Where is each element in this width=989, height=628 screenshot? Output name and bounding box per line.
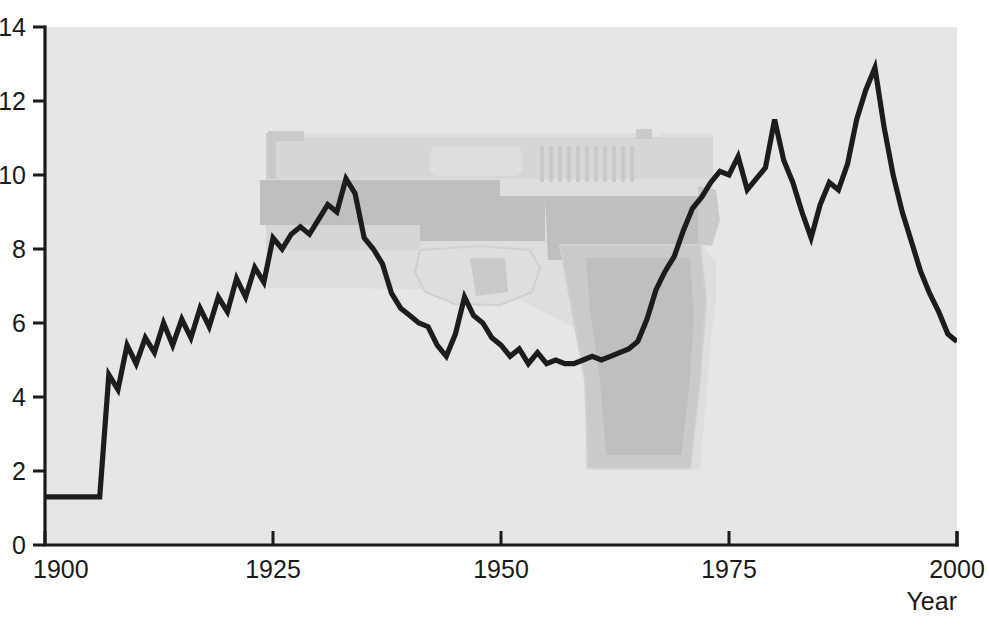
y-tick-label-4: 4 <box>12 383 26 411</box>
x-tick-label-2000: 2000 <box>929 555 985 583</box>
y-tick-label-12: 12 <box>0 87 26 115</box>
y-tick-label-10: 10 <box>0 161 26 189</box>
pistol-ejection-port <box>430 146 522 176</box>
pistol-front-sight <box>636 129 652 139</box>
y-axis-ticks <box>33 27 45 545</box>
y-tick-label-2: 2 <box>12 457 26 485</box>
x-tick-label-1975: 1975 <box>701 555 757 583</box>
y-axis-tick-labels: 02468101214 <box>0 13 26 559</box>
x-tick-label-1925: 1925 <box>245 555 301 583</box>
line-chart: 02468101214 19001925195019752000 Year <box>0 0 989 628</box>
pistol-trigger <box>470 258 508 296</box>
y-tick-label-6: 6 <box>12 309 26 337</box>
x-axis-tick-labels: 19001925195019752000 <box>33 555 985 583</box>
pistol-muzzle <box>266 133 276 179</box>
y-tick-label-0: 0 <box>12 531 26 559</box>
x-axis-title: Year <box>906 587 957 615</box>
x-tick-label-1900: 1900 <box>33 555 89 583</box>
y-tick-label-8: 8 <box>12 235 26 263</box>
chart-figure: 02468101214 19001925195019752000 Year <box>0 0 989 628</box>
y-tick-label-14: 14 <box>0 13 26 41</box>
x-tick-label-1950: 1950 <box>473 555 529 583</box>
